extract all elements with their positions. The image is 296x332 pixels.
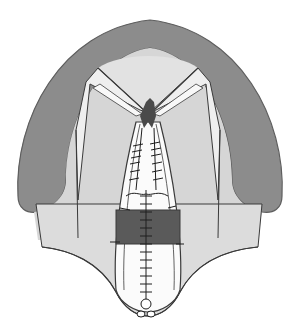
palate-repair-illustration — [0, 0, 296, 332]
illustration-canvas — [0, 0, 296, 332]
defect-block — [116, 210, 180, 244]
